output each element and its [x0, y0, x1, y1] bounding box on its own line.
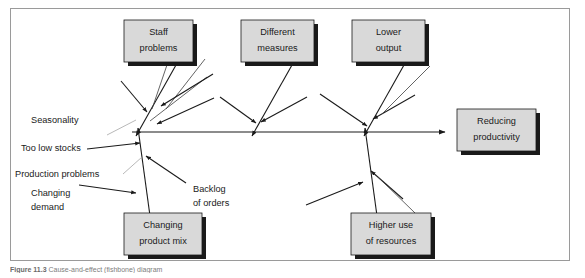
figure-caption-number: Figure 11.3 [10, 266, 47, 273]
cause-label-backlog-of-orders-line1: Backlog [193, 184, 226, 194]
twig-arrow-measures-left [220, 97, 256, 123]
leader-production-problems [123, 157, 142, 174]
box-label-higher-use-of-resources-line2: of resources [366, 236, 417, 246]
twig-arrow-backlog-of-orders [146, 156, 186, 183]
box-fill-different-measures [241, 20, 314, 62]
cause-label-too-low-stocks: Too low stocks [21, 143, 81, 153]
twig-arrow-changing-demand [79, 185, 136, 193]
category-box-staff-problems[interactable]: Staff problems [124, 20, 197, 66]
leader-seasonality [107, 120, 136, 135]
box-fill-higher-use-of-resources [351, 213, 431, 255]
twig-arrow-too-low-stocks [87, 143, 140, 149]
figure-root: Staff problems Different measures Lower … [0, 0, 585, 278]
figure-caption: Figure 11.3 Cause-and-effect (fishbone) … [10, 266, 570, 273]
effect-box-reducing-productivity[interactable]: Reducing productivity [457, 109, 540, 155]
twig-arrow-resources-left [306, 182, 363, 205]
twig-staff-2 [166, 59, 205, 109]
twig-arrow-measures-right [261, 97, 307, 122]
cause-label-production-problems: Production problems [15, 169, 100, 179]
cause-label-backlog-of-orders-line2: of orders [193, 198, 230, 208]
box-label-higher-use-of-resources-line1: Higher use [369, 220, 413, 230]
category-box-lower-output[interactable]: Lower output [352, 20, 429, 66]
box-label-lower-output-line2: output [376, 43, 402, 53]
twig-arrow-staff-lower [157, 98, 214, 124]
twig-arrow-output-left [320, 94, 367, 126]
twig-arrow-staff-left [121, 81, 147, 112]
box-fill-reducing-productivity [457, 109, 536, 151]
category-box-higher-use-of-resources[interactable]: Higher use of resources [351, 213, 435, 259]
category-box-changing-product-mix[interactable]: Changing product mix [124, 213, 206, 259]
twig-arrow-output-right [373, 95, 415, 119]
box-fill-staff-problems [124, 20, 193, 62]
twig-staff-1 [152, 59, 169, 109]
category-box-different-measures[interactable]: Different measures [241, 20, 318, 66]
fishbone-diagram: Staff problems Different measures Lower … [11, 9, 569, 260]
box-label-changing-product-mix-line2: product mix [139, 236, 187, 246]
rib-different-measures [252, 65, 292, 136]
effect-label-line2: productivity [473, 132, 520, 142]
figure-caption-text: Cause-and-effect (fishbone) diagram [49, 266, 163, 273]
box-label-changing-product-mix-line1: Changing [143, 220, 182, 230]
rib-lower-output [364, 65, 404, 136]
diagram-frame: Staff problems Different measures Lower … [10, 8, 570, 261]
cause-label-seasonality: Seasonality [31, 115, 79, 125]
box-label-different-measures-line1: Different [260, 27, 295, 37]
box-fill-changing-product-mix [124, 213, 202, 255]
twig-arrow-resources-right [371, 171, 403, 199]
box-label-different-measures-line2: measures [257, 43, 298, 53]
box-fill-lower-output [352, 20, 425, 62]
twig-resources-extra [378, 177, 415, 213]
box-label-staff-problems-line2: problems [140, 43, 178, 53]
cause-label-changing-demand-line2: demand [31, 202, 64, 212]
box-label-staff-problems-line1: Staff [149, 27, 168, 37]
rib-changing-product-mix [138, 128, 150, 216]
box-label-lower-output-line1: Lower [376, 27, 401, 37]
rib-higher-use-of-resources [365, 128, 377, 216]
effect-label-line1: Reducing [477, 116, 516, 126]
cause-label-changing-demand-line1: Changing [31, 188, 70, 198]
twig-output-extra [382, 66, 430, 114]
